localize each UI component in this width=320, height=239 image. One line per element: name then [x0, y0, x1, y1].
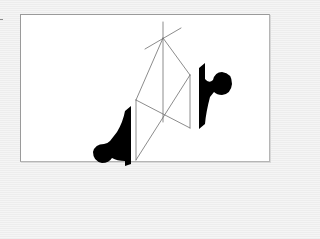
wireframe-prism	[136, 22, 190, 160]
diagram-canvas	[0, 0, 297, 180]
right-silhouette	[199, 63, 232, 129]
left-silhouette	[93, 106, 131, 166]
